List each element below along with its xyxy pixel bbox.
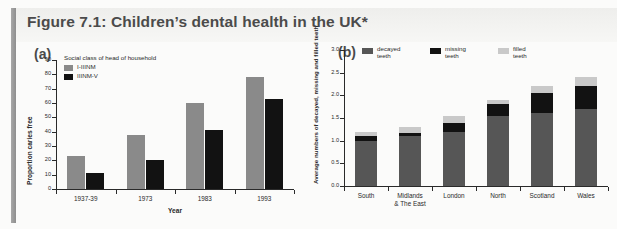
legend-label-2-b-line2: teeth — [445, 52, 459, 59]
bar-Wales-missing-teeth — [575, 86, 597, 109]
bar-South-filled-teeth — [355, 132, 377, 137]
x-tick-label-a: 1983 — [171, 195, 239, 202]
legend-label-1-b: decayed — [377, 45, 400, 52]
y-axis-line-b — [344, 50, 345, 187]
bar-Wales-decayed-teeth — [575, 109, 597, 186]
legend-label-2-a: IIINM-V — [77, 72, 98, 79]
y-tick-a — [52, 74, 56, 75]
bar-1983-IIINM-V — [205, 130, 223, 189]
bar-Midlands & The East-decayed-teeth — [399, 136, 421, 186]
x-tick-b — [388, 187, 389, 191]
y-tick-label-a: 10 — [30, 171, 51, 177]
bar-Midlands & The East-filled-teeth — [399, 127, 421, 132]
bar-North-missing-teeth — [487, 104, 509, 115]
bar-1993-IIINM-V — [265, 99, 283, 189]
y-tick-label-b: 3.0 — [318, 46, 339, 52]
x-tick-a — [235, 190, 236, 194]
y-tick-b — [340, 141, 344, 142]
panel-a: (a) 0102030405060708090Proportion caries… — [22, 44, 302, 224]
x-tick-b — [476, 187, 477, 191]
bar-North-decayed-teeth — [487, 116, 509, 186]
y-tick-label-a: 30 — [30, 142, 51, 148]
y-tick-a — [52, 132, 56, 133]
bar-South-missing-teeth — [355, 136, 377, 141]
bar-Scotland-decayed-teeth — [531, 113, 553, 186]
y-tick-label-a: 80 — [30, 70, 51, 76]
bar-Scotland-filled-teeth — [531, 86, 553, 93]
bar-1937-39-I-IIINM — [67, 156, 85, 189]
y-tick-label-b: 1.5 — [318, 114, 339, 120]
legend-title-a: Social class of head of household — [64, 54, 156, 61]
bar-South-decayed-teeth — [355, 141, 377, 186]
bar-North-filled-teeth — [487, 100, 509, 105]
bar-Midlands & The East-missing-teeth — [399, 133, 421, 137]
y-tick-label-b: 0.5 — [318, 159, 339, 165]
bar-London-filled-teeth — [443, 116, 465, 123]
x-tick-b — [344, 187, 345, 191]
bar-1983-I-IIINM — [186, 103, 204, 189]
legend-label-3-b-line2: teeth — [513, 52, 527, 59]
bar-1993-I-IIINM — [246, 77, 264, 189]
panel-b: (b) 0.00.51.01.52.02.53.0Average numbers… — [310, 44, 615, 224]
y-tick-b — [340, 163, 344, 164]
x-tick-b — [520, 187, 521, 191]
x-tick-a — [294, 190, 295, 194]
y-tick-label-b: 1.0 — [318, 137, 339, 143]
bar-1937-39-IIINM-V — [86, 173, 104, 189]
figure-container: Figure 7.1: Children’s dental health in … — [0, 0, 617, 229]
legend-swatch-1-a — [64, 65, 73, 71]
x-tick-b — [608, 187, 609, 191]
legend-label-1-b-line2: teeth — [377, 52, 391, 59]
x-tick-b — [564, 187, 565, 191]
bar-Scotland-missing-teeth — [531, 93, 553, 113]
y-tick-a — [52, 146, 56, 147]
bar-1973-I-IIINM — [127, 135, 145, 189]
panel-b-letter: (b) — [338, 44, 356, 60]
x-tick-label-b: Wales — [556, 192, 616, 199]
y-tick-b — [340, 118, 344, 119]
y-tick-a — [52, 117, 56, 118]
bar-1973-IIINM-V — [146, 160, 164, 189]
bar-London-decayed-teeth — [443, 132, 465, 186]
y-tick-label-a: 0 — [30, 185, 51, 191]
y-tick-label-a: 40 — [30, 128, 51, 134]
y-axis-line-a — [56, 60, 57, 190]
legend-swatch-2-b — [430, 48, 441, 54]
x-tick-label-a: 1937-39 — [52, 195, 120, 202]
bar-London-missing-teeth — [443, 123, 465, 132]
x-tick-a — [175, 190, 176, 194]
y-tick-label-a: 70 — [30, 85, 51, 91]
y-tick-a — [52, 160, 56, 161]
y-tick-b — [340, 73, 344, 74]
y-tick-label-a: 90 — [30, 56, 51, 62]
x-tick-a — [116, 190, 117, 194]
y-tick-a — [52, 89, 56, 90]
x-tick-b — [432, 187, 433, 191]
bar-Wales-filled-teeth — [575, 77, 597, 86]
legend-label-2-b: missing — [445, 45, 466, 52]
x-tick-label-a: 1993 — [230, 195, 298, 202]
x-tick-label-a: 1973 — [111, 195, 179, 202]
y-axis-title-b: Average numbers of decayed, missing and … — [312, 26, 319, 184]
legend-label-3-b: filled — [513, 45, 526, 52]
y-tick-b — [340, 50, 344, 51]
x-tick-a — [56, 190, 57, 194]
y-axis-title-a: Proportion caries free — [26, 116, 33, 185]
y-tick-label-b: 2.0 — [318, 91, 339, 97]
x-tick-label-b: & The East — [380, 200, 440, 207]
y-tick-a — [52, 103, 56, 104]
y-tick-a — [52, 60, 56, 61]
legend-swatch-3-b — [498, 48, 509, 54]
legend-label-1-a: I-IIINM — [77, 63, 96, 70]
legend-swatch-2-a — [64, 74, 73, 80]
y-tick-label-a: 20 — [30, 156, 51, 162]
x-axis-title-a: Year — [161, 207, 189, 214]
y-tick-label-b: 0.0 — [318, 182, 339, 188]
y-tick-b — [340, 95, 344, 96]
y-tick-a — [52, 175, 56, 176]
y-tick-label-a: 50 — [30, 113, 51, 119]
y-tick-label-a: 60 — [30, 99, 51, 105]
legend-swatch-1-b — [362, 48, 373, 54]
y-tick-label-b: 2.5 — [318, 69, 339, 75]
